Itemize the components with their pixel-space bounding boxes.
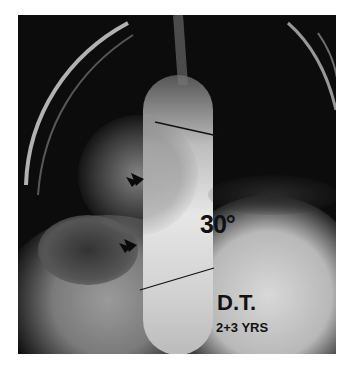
upper-endplate-line [155,122,218,136]
xray-overlay [18,15,336,354]
arrow-icon-lower [119,239,137,253]
xray-image: 30° D.T. 2+3 YRS [18,15,336,354]
arrow-icon-upper [126,173,144,187]
patient-initials-label: D.T. [217,290,256,316]
lower-endplate-line [140,268,214,290]
angle-label: 30° [200,210,235,239]
age-label: 2+3 YRS [216,320,268,335]
